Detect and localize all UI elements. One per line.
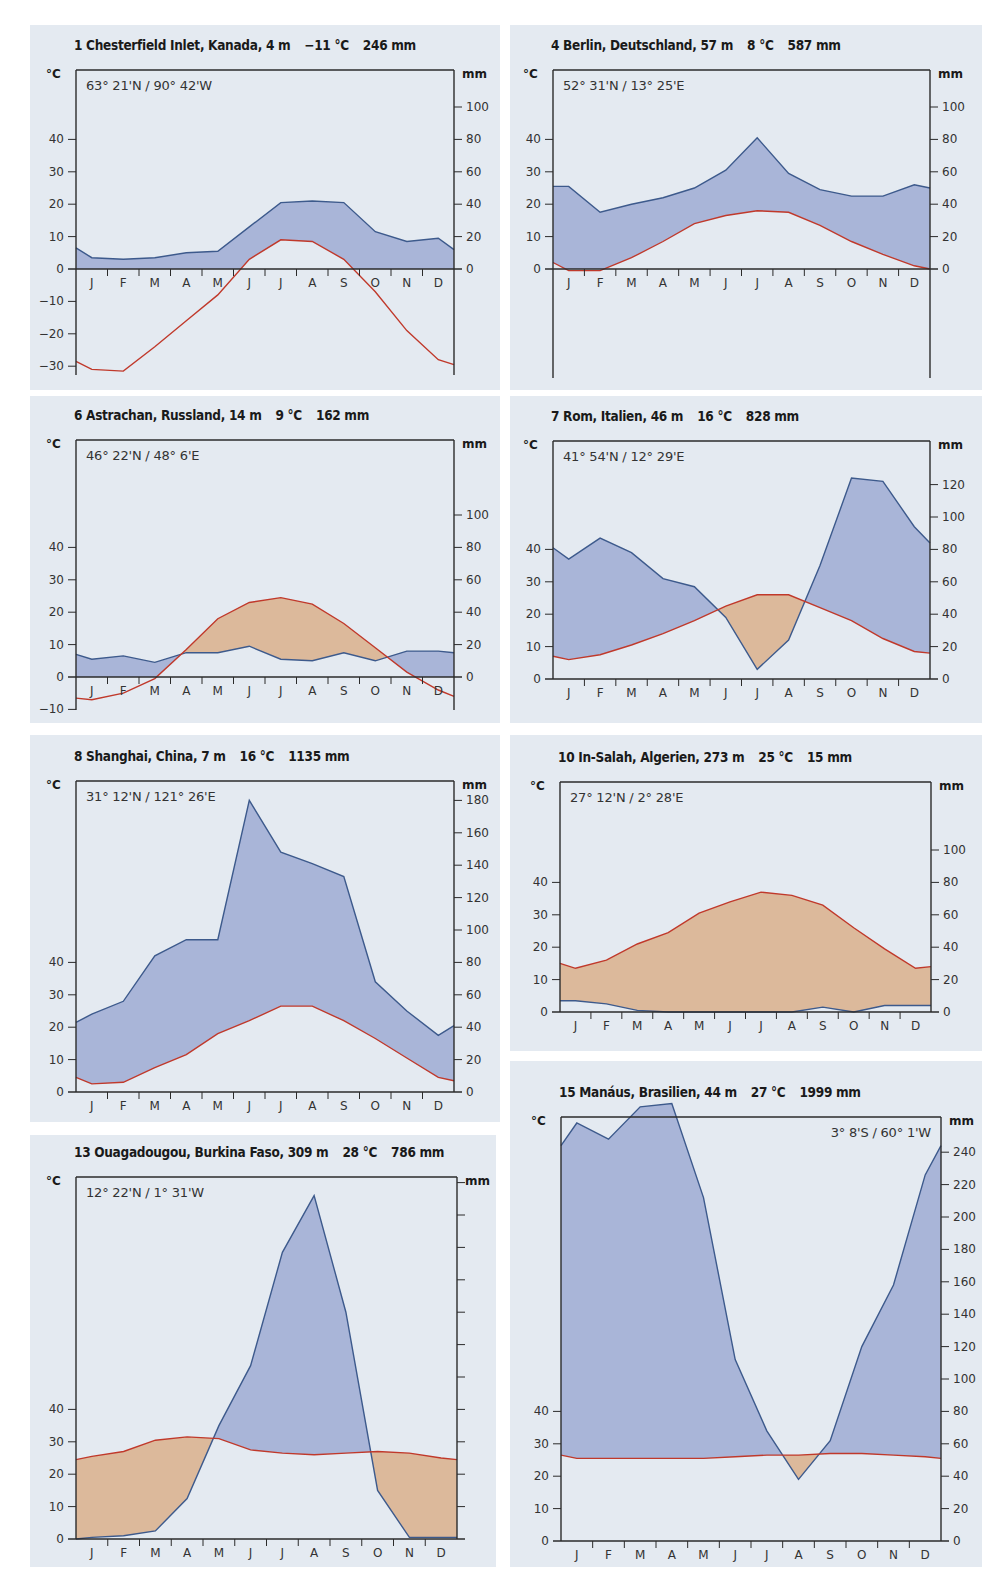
month-label: J [574, 1548, 579, 1562]
annual-precipitation: 828 mm [746, 408, 799, 424]
mean-temperature: 8 °C [747, 37, 773, 53]
month-label: M [150, 684, 160, 698]
climate-diagram-manaus: 0102030400204060801001201401601802002202… [510, 1061, 982, 1567]
precipitation-tick-label: 80 [466, 955, 481, 969]
month-label: A [308, 684, 317, 698]
precipitation-tick-label: 60 [466, 988, 481, 1002]
diagram-title: 7 Rom, Italien, 46 m16 °C828 mm [551, 408, 813, 424]
station-name: 7 Rom, Italien, 46 m [551, 408, 683, 424]
temperature-tick-label: 0 [533, 672, 541, 686]
month-label: D [434, 684, 443, 698]
temperature-tick-label: 20 [533, 940, 548, 954]
annual-precipitation: 162 mm [316, 407, 369, 423]
station-name: 4 Berlin, Deutschland, 57 m [551, 37, 733, 53]
month-label: M [635, 1548, 645, 1562]
climate-diagram-ouagadougou: 010203040JFMAMJJASOND13 Ouagadougou, Bur… [30, 1135, 496, 1567]
diagram-title: 8 Shanghai, China, 7 m16 °C1135 mm [74, 748, 363, 764]
month-label: D [910, 276, 919, 290]
month-label: N [402, 684, 411, 698]
climate-diagram-insalah: 010203040020406080100JFMAMJJASOND10 In-S… [510, 735, 982, 1051]
precipitation-tick-label: 80 [943, 875, 958, 889]
temperature-tick-label: 20 [526, 197, 541, 211]
temperature-unit-label: °C [530, 779, 545, 793]
temperature-tick-label: 10 [49, 638, 64, 652]
month-label: A [182, 276, 191, 290]
month-label: S [340, 1099, 348, 1113]
temperature-tick-label: 30 [526, 575, 541, 589]
temperature-tick-label: 20 [49, 197, 64, 211]
annual-precipitation: 587 mm [788, 37, 841, 53]
month-label: S [340, 276, 348, 290]
precipitation-tick-label: 0 [942, 262, 950, 276]
diagram-title: 10 In-Salah, Algerien, 273 m25 °C15 mm [558, 749, 866, 765]
diagram-fills [561, 1104, 941, 1480]
climate-diagram-astrachan: −10010203040020406080100JFMAMJJASOND6 As… [30, 396, 500, 723]
arid-area [560, 892, 931, 1012]
precipitation-tick-label: 160 [953, 1275, 976, 1289]
station-coordinates: 3° 8'S / 60° 1'W [831, 1125, 931, 1140]
diagram-fills [76, 801, 454, 1084]
month-label: D [921, 1548, 930, 1562]
month-label: M [698, 1548, 708, 1562]
month-label: J [89, 1099, 94, 1113]
station-coordinates: 46° 22'N / 48° 6'E [86, 448, 199, 463]
annual-precipitation: 786 mm [391, 1144, 444, 1160]
month-label: J [280, 1546, 285, 1560]
month-label: J [573, 1019, 578, 1033]
month-label: J [754, 276, 759, 290]
precipitation-tick-label: 200 [953, 1210, 976, 1224]
precipitation-tick-label: 40 [942, 607, 957, 621]
temperature-tick-label: 30 [534, 1437, 549, 1451]
temperature-tick-label: −20 [39, 327, 64, 341]
precipitation-tick-label: 20 [466, 1053, 481, 1067]
mean-temperature: 16 °C [240, 748, 275, 764]
month-label: O [849, 1019, 858, 1033]
precipitation-tick-label: 0 [942, 672, 950, 686]
precipitation-tick-label: 20 [466, 230, 481, 244]
month-label: F [603, 1019, 610, 1033]
station-name: 6 Astrachan, Russland, 14 m [74, 407, 262, 423]
month-label: M [632, 1019, 642, 1033]
precipitation-tick-label: 80 [466, 540, 481, 554]
station-name: 15 Manáus, Brasilien, 44 m [559, 1084, 737, 1100]
month-label: M [213, 1099, 223, 1113]
month-label: N [402, 276, 411, 290]
month-label: J [248, 1546, 253, 1560]
precipitation-tick-label: 240 [953, 1145, 976, 1159]
month-label: M [626, 686, 636, 700]
diagram-title: 1 Chesterfield Inlet, Kanada, 4 m−11 °C2… [74, 37, 430, 53]
precipitation-tick-label: 0 [943, 1005, 951, 1019]
precipitation-tick-label: 40 [466, 1020, 481, 1034]
month-label: A [182, 684, 191, 698]
month-label: J [727, 1019, 732, 1033]
precipitation-tick-label: 80 [942, 132, 957, 146]
month-label: J [732, 1548, 737, 1562]
temperature-unit-label: °C [46, 67, 61, 81]
precipitation-tick-label: 60 [466, 165, 481, 179]
precipitation-unit-label: mm [462, 67, 487, 81]
month-label: N [402, 1099, 411, 1113]
temperature-tick-label: 30 [533, 908, 548, 922]
annual-precipitation: 246 mm [363, 37, 416, 53]
temperature-unit-label: °C [46, 1174, 61, 1188]
precipitation-tick-label: 60 [466, 573, 481, 587]
month-label: A [308, 1099, 317, 1113]
month-label: S [826, 1548, 834, 1562]
month-label: N [878, 686, 887, 700]
diagram-plot: −10010203040020406080100JFMAMJJASOND [30, 396, 500, 723]
month-label: J [723, 276, 728, 290]
annual-precipitation: 15 mm [807, 749, 852, 765]
temperature-tick-label: 10 [533, 973, 548, 987]
precipitation-tick-label: 160 [466, 826, 489, 840]
month-label: S [340, 684, 348, 698]
month-label: S [816, 276, 824, 290]
month-label: J [764, 1548, 769, 1562]
month-label: D [437, 1546, 446, 1560]
station-coordinates: 63° 21'N / 90° 42'W [86, 78, 212, 93]
month-label: J [278, 684, 283, 698]
month-label: A [183, 1546, 192, 1560]
diagram-title: 6 Astrachan, Russland, 14 m9 °C162 mm [74, 407, 383, 423]
month-label: O [371, 276, 380, 290]
station-coordinates: 31° 12'N / 121° 26'E [86, 789, 215, 804]
mean-temperature: 25 °C [758, 749, 793, 765]
